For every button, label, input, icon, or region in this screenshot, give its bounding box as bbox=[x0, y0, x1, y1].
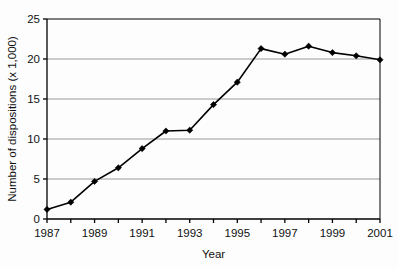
data-markers bbox=[44, 43, 383, 212]
chart-canvas: 0510152025198719891991199319951997199920… bbox=[0, 0, 398, 268]
y-axis-title: Number of dispositions (x 1,000) bbox=[6, 36, 18, 202]
y-tick-label-5: 5 bbox=[34, 173, 40, 185]
x-tick-label-1999: 1999 bbox=[320, 227, 346, 239]
line-chart: 0510152025198719891991199319951997199920… bbox=[0, 0, 398, 268]
y-tick-label-25: 25 bbox=[27, 13, 40, 25]
data-point-1999 bbox=[329, 50, 335, 56]
x-tick-label-1993: 1993 bbox=[177, 227, 203, 239]
data-point-1998 bbox=[306, 43, 312, 49]
y-tick-label-20: 20 bbox=[27, 53, 40, 65]
axes bbox=[47, 19, 380, 219]
x-tick-label-1995: 1995 bbox=[224, 227, 250, 239]
gridlines bbox=[47, 19, 380, 179]
y-tick-label-15: 15 bbox=[27, 93, 40, 105]
x-tick-label-2001: 2001 bbox=[367, 227, 393, 239]
data-point-2001 bbox=[377, 57, 383, 63]
data-line-number-of-dispositions bbox=[47, 46, 380, 209]
x-tick-label-1987: 1987 bbox=[34, 227, 60, 239]
y-axis-ticks: 0510152025 bbox=[27, 13, 47, 225]
x-tick-label-1991: 1991 bbox=[129, 227, 155, 239]
x-tick-label-1989: 1989 bbox=[82, 227, 108, 239]
x-tick-label-1997: 1997 bbox=[272, 227, 298, 239]
data-point-1997 bbox=[282, 51, 288, 57]
y-tick-label-10: 10 bbox=[27, 133, 40, 145]
y-tick-label-0: 0 bbox=[34, 213, 40, 225]
data-point-1987 bbox=[44, 206, 50, 212]
data-point-2000 bbox=[353, 53, 359, 59]
x-axis-title: Year bbox=[202, 248, 225, 260]
x-axis-ticks: 19871989199119931995199719992001 bbox=[34, 219, 393, 239]
